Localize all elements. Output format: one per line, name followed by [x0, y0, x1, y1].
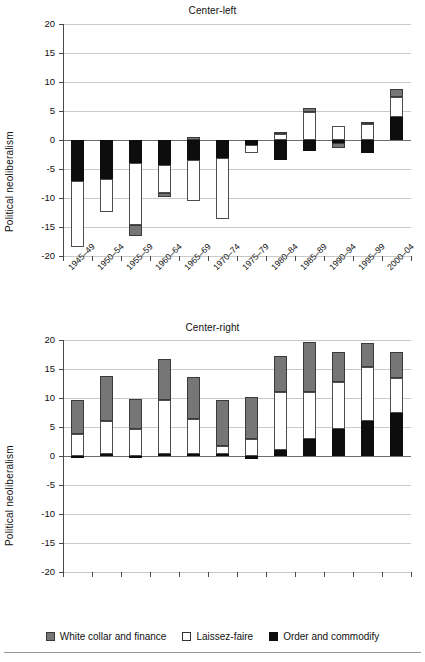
- plot-area-center-right: 20151050-5-10-15-20: [63, 340, 411, 572]
- chart-panel-center-right: Center-right Political neoliberalism 201…: [0, 318, 425, 618]
- x-tick: [92, 572, 93, 577]
- bar-segment: [245, 145, 258, 153]
- bar-segment: [274, 450, 287, 456]
- bar-1990-94: [332, 24, 345, 256]
- x-tick: [208, 256, 209, 261]
- chart-title-center-left: Center-left: [0, 5, 425, 16]
- y-tick-label: 20: [21, 18, 55, 29]
- bar-segment: [71, 181, 84, 247]
- bar-2000-04: [390, 340, 403, 572]
- gridline: [63, 514, 411, 515]
- bar-1945-49: [71, 340, 84, 572]
- bar-segment: [158, 359, 171, 400]
- legend-label: White collar and finance: [60, 631, 167, 642]
- bar-1960-64: [158, 340, 171, 572]
- bar-1975-79: [245, 340, 258, 572]
- bar-segment: [274, 132, 287, 134]
- y-tick-label: -5: [21, 163, 55, 174]
- x-tick: [150, 256, 151, 261]
- bar-1975-79: [245, 24, 258, 256]
- gridline: [63, 82, 411, 83]
- bar-segment: [216, 158, 229, 219]
- x-tick: [324, 256, 325, 261]
- bar-segment: [361, 124, 374, 140]
- x-tick: [237, 572, 238, 577]
- gridline: [63, 227, 411, 228]
- bar-segment: [187, 137, 200, 140]
- x-tick: [295, 572, 296, 577]
- bar-segment: [303, 342, 316, 392]
- bar-2000-04: [390, 24, 403, 256]
- x-tick: [411, 572, 412, 577]
- bar-segment: [158, 165, 171, 193]
- gridline: [63, 485, 411, 486]
- y-tick-label: 15: [21, 47, 55, 58]
- gridline: [63, 198, 411, 199]
- gridline: [63, 427, 411, 428]
- gridline: [63, 24, 411, 25]
- y-axis-label-bottom: Political neoliberalism: [4, 356, 15, 546]
- y-axis: [63, 24, 64, 256]
- bar-1970-74: [216, 24, 229, 256]
- bar-segment: [158, 400, 171, 455]
- x-tick: [179, 572, 180, 577]
- gridline: [63, 169, 411, 170]
- gridline: [63, 369, 411, 370]
- bar-segment: [332, 429, 345, 456]
- y-tick-label: 0: [21, 134, 55, 145]
- legend-label: Order and commodify: [283, 631, 379, 642]
- x-tick: [382, 572, 383, 577]
- bar-segment: [100, 376, 113, 421]
- legend-item-laissez_faire: Laissez-faire: [182, 631, 253, 642]
- bar-segment: [303, 108, 316, 112]
- x-tick: [121, 572, 122, 577]
- x-tick: [208, 572, 209, 577]
- bar-segment: [303, 140, 316, 151]
- bar-segment: [71, 140, 84, 181]
- y-tick-label: -20: [21, 566, 55, 577]
- zero-line: [63, 140, 411, 141]
- bar-segment: [100, 454, 113, 456]
- bar-1985-89: [303, 24, 316, 256]
- legend: White collar and financeLaissez-faireOrd…: [0, 629, 425, 643]
- x-tick: [353, 256, 354, 261]
- bar-segment: [158, 193, 171, 198]
- bar-segment: [303, 112, 316, 140]
- bar-segment: [245, 439, 258, 456]
- bar-1995-99: [361, 24, 374, 256]
- bar-1995-99: [361, 340, 374, 572]
- bar-1970-74: [216, 340, 229, 572]
- chart-panel-center-left: Center-left Political neoliberalism 2015…: [0, 0, 425, 310]
- bar-segment: [129, 225, 142, 236]
- bar-segment: [361, 367, 374, 421]
- bar-segment: [245, 456, 258, 459]
- bar-segment: [71, 456, 84, 458]
- bar-1960-64: [158, 24, 171, 256]
- bar-segment: [71, 400, 84, 434]
- bar-segment: [129, 399, 142, 430]
- gridline: [63, 543, 411, 544]
- bar-segment: [390, 117, 403, 140]
- legend-item-order_commodify: Order and commodify: [269, 631, 379, 642]
- bar-segment: [100, 421, 113, 454]
- bar-segment: [361, 343, 374, 367]
- bar-segment: [332, 382, 345, 428]
- x-tick: [411, 256, 412, 261]
- bar-segment: [216, 454, 229, 456]
- bar-segment: [158, 454, 171, 456]
- bar-segment: [332, 126, 345, 141]
- bar-1950-54: [100, 340, 113, 572]
- y-tick-label: 10: [21, 76, 55, 87]
- bar-segment: [390, 378, 403, 413]
- y-tick-label: 5: [21, 105, 55, 116]
- gridline: [63, 340, 411, 341]
- chart-title-center-right: Center-right: [0, 322, 425, 333]
- y-axis-label-top: Political neoliberalism: [4, 42, 15, 232]
- bar-1965-69: [187, 340, 200, 572]
- y-tick-label: 15: [21, 363, 55, 374]
- bar-segment: [390, 97, 403, 117]
- bar-1955-59: [129, 340, 142, 572]
- bar-segment: [390, 89, 403, 97]
- bar-segment: [245, 397, 258, 439]
- bar-1955-59: [129, 24, 142, 256]
